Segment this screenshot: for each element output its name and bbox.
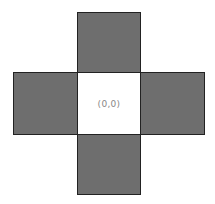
center-label: (0,0) [98,99,121,109]
right-square [140,72,205,135]
left-square [13,72,78,135]
top-square [77,12,141,73]
bottom-square [77,134,141,195]
center-square: (0,0) [77,72,141,135]
